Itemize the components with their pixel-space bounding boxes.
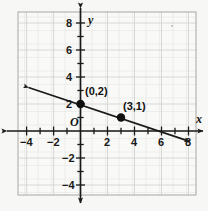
scan-speck (171, 25, 173, 27)
x-tick-label-8: 8 (185, 137, 191, 148)
y-tick-label-8: 8 (66, 18, 72, 29)
y-tick-label--4: −4 (62, 180, 75, 191)
y-axis-label: y (88, 14, 93, 26)
y-tick-label-6: 6 (66, 45, 72, 56)
x-axis-label: x (196, 113, 202, 125)
coordinate-plane-svg (0, 0, 208, 211)
x-tick-label--4: −4 (20, 137, 33, 148)
origin-label: O (70, 116, 79, 128)
y-tick-label-4: 4 (66, 72, 72, 83)
x-tick-label-2: 2 (104, 137, 110, 148)
graph-figure: −4 −2 2 4 6 8 8 6 4 2 −2 −4 O y x (0,2) … (0, 0, 208, 211)
data-point-0-2 (76, 100, 84, 108)
y-tick-label-2: 2 (66, 99, 72, 110)
data-point-3-1 (117, 113, 125, 121)
x-tick-label--2: −2 (47, 137, 60, 148)
point-label-3-1: (3,1) (123, 101, 146, 112)
plot-area-background (18, 12, 196, 195)
point-label-0-2: (0,2) (85, 86, 108, 97)
y-tick-label--2: −2 (62, 153, 75, 164)
x-tick-label-4: 4 (131, 137, 137, 148)
x-tick-label-6: 6 (158, 137, 164, 148)
